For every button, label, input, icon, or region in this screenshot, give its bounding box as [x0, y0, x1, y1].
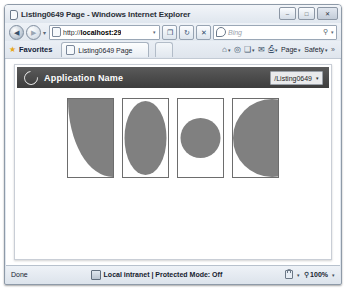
- shape-box-4: [232, 98, 279, 178]
- chevron-down-icon: ▾: [316, 75, 319, 81]
- site-icon: [52, 27, 61, 37]
- favorites-bar: ★ Favorites Listing0649 Page ⌂ ▾ ◎ ❑ ▾ ✉…: [5, 41, 341, 59]
- security-zone[interactable]: Local intranet | Protected Mode: Off: [91, 270, 223, 280]
- shape-box-3: [177, 98, 224, 178]
- chevron-down-icon[interactable]: ▾: [332, 272, 335, 278]
- search-placeholder: Bing: [228, 29, 242, 36]
- home-button[interactable]: ⌂ ▾: [221, 46, 232, 54]
- mail-icon: ❑: [244, 46, 251, 54]
- address-bar: ◀ ▶ ▾ http://localhost:29 ▾ ❐ ↻ ✕ Bing ⚲…: [5, 23, 341, 41]
- page-menu-label: Page: [281, 46, 297, 53]
- shapes-container: [17, 88, 329, 257]
- tab-label: Listing0649 Page: [78, 47, 132, 54]
- chevron-down-icon[interactable]: ▾: [153, 29, 157, 35]
- window-controls: – □ ✕: [279, 7, 338, 20]
- command-bar-overflow-button[interactable]: »: [330, 46, 336, 53]
- recent-pages-caret[interactable]: ▾: [43, 29, 46, 36]
- chevron-down-icon: ▾: [275, 47, 278, 53]
- print-preview-button[interactable]: ✉: [257, 46, 266, 54]
- browser-window: Listing0649 Page - Windows Internet Expl…: [4, 4, 342, 285]
- chevron-down-icon: ▾: [252, 47, 255, 53]
- shape-box-1: [67, 98, 114, 178]
- chevron-down-icon[interactable]: ▾: [297, 272, 300, 278]
- swirl-logo-icon: [21, 68, 41, 88]
- quarter-ellipse-shape: [68, 99, 113, 177]
- back-button[interactable]: ◀: [9, 25, 24, 40]
- application-name: Application Name: [44, 73, 123, 83]
- path-selector[interactable]: /Listing0649 ▾: [270, 71, 323, 85]
- printer-icon: ⎙: [268, 46, 274, 54]
- feeds-icon: ◎: [234, 46, 241, 54]
- zoom-level: 100%: [310, 271, 328, 278]
- search-icon[interactable]: ⚲: [323, 28, 328, 36]
- print-button[interactable]: ⎙ ▾: [267, 46, 279, 54]
- envelope-icon: ✉: [258, 46, 265, 54]
- bing-icon: [216, 27, 226, 37]
- new-tab-button[interactable]: [155, 42, 173, 57]
- page-icon: [66, 45, 75, 55]
- lock-icon[interactable]: [285, 270, 293, 279]
- feeds-button[interactable]: ◎: [233, 46, 242, 54]
- safety-menu-button[interactable]: Safety ▾: [303, 46, 329, 53]
- refresh-button[interactable]: ↻: [179, 25, 194, 40]
- compatibility-view-button[interactable]: ❐: [162, 25, 177, 40]
- read-mail-button[interactable]: ❑ ▾: [243, 46, 256, 54]
- page-icon: [9, 10, 18, 19]
- status-text: Done: [11, 271, 28, 278]
- chevron-down-icon: ▾: [325, 47, 328, 53]
- forward-button[interactable]: ▶: [26, 25, 41, 40]
- application-header: Application Name /Listing0649 ▾: [17, 67, 329, 88]
- maximize-button[interactable]: □: [298, 7, 315, 20]
- window-title: Listing0649 Page - Windows Internet Expl…: [21, 10, 190, 19]
- search-input[interactable]: Bing ⚲ ▾: [213, 25, 337, 40]
- home-icon: ⌂: [222, 46, 227, 54]
- full-ellipse-shape: [123, 99, 168, 177]
- star-icon[interactable]: ★: [9, 46, 16, 54]
- chevron-down-icon: ▾: [298, 47, 301, 53]
- close-button[interactable]: ✕: [317, 7, 338, 20]
- chevron-down-icon: ▾: [228, 47, 231, 53]
- search-provider-caret[interactable]: ▾: [330, 29, 334, 35]
- status-bar: Done Local intranet | Protected Mode: Of…: [6, 265, 340, 283]
- page-menu-button[interactable]: Page ▾: [280, 46, 302, 53]
- title-bar: Listing0649 Page - Windows Internet Expl…: [5, 5, 341, 23]
- address-input[interactable]: http://localhost:29 ▾: [49, 25, 160, 40]
- safety-menu-label: Safety: [304, 46, 324, 53]
- favorites-button[interactable]: Favorites: [19, 45, 52, 54]
- page-viewport: Application Name /Listing0649 ▾: [6, 58, 340, 265]
- shape-box-2: [122, 98, 169, 178]
- minimize-button[interactable]: –: [279, 7, 296, 20]
- address-value: http://localhost:29: [63, 29, 121, 36]
- web-page: Application Name /Listing0649 ▾: [14, 64, 332, 260]
- stop-button[interactable]: ✕: [196, 25, 211, 40]
- command-bar: ⌂ ▾ ◎ ❑ ▾ ✉ ⎙ ▾ Page ▾ Safety: [221, 46, 337, 54]
- network-icon: [91, 270, 101, 280]
- status-right-group: ▾ ⚲ 100% ▾: [285, 270, 335, 279]
- security-zone-label: Local intranet | Protected Mode: Off: [104, 271, 223, 278]
- zoom-icon: ⚲: [304, 271, 309, 279]
- zoom-control[interactable]: ⚲ 100%: [304, 271, 328, 279]
- circle-shape: [178, 99, 223, 177]
- browser-tab[interactable]: Listing0649 Page: [61, 42, 149, 57]
- path-selector-value: /Listing0649: [274, 75, 312, 82]
- large-circle-clipped-shape: [233, 99, 278, 177]
